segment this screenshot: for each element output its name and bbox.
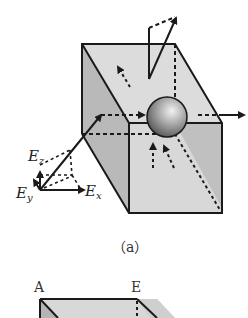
ey-label: Ey [15,184,33,203]
sphere-particle [147,97,187,137]
vertex-a-label: A [33,279,45,295]
figure-canvas: Ez Ey Ex （a） A E [0,0,248,318]
figure-a-caption: （a） [112,239,148,255]
figure-b-partial [40,299,175,318]
ex-label: Ex [84,182,102,201]
ez-label: Ez [27,147,45,166]
vertex-e-label: E [131,279,141,295]
cube-diagram [40,17,244,213]
